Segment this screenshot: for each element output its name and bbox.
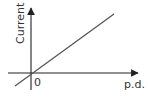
origin-label: 0 [34, 76, 41, 89]
x-axis-label: p.d. [124, 78, 145, 91]
current-pd-graph: 0 p.d. Current [0, 0, 148, 99]
y-axis-label: Current [14, 2, 27, 44]
data-line [15, 14, 114, 86]
